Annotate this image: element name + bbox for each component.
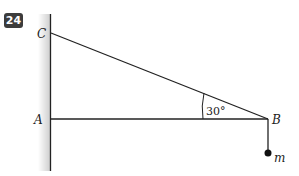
label-m: m	[274, 151, 285, 165]
diagram: C A B 30° m	[0, 0, 299, 176]
label-c: C	[37, 27, 46, 41]
angle-label: 30°	[206, 105, 226, 118]
mass	[265, 150, 272, 157]
angle-arc	[202, 93, 204, 119]
cable-cb	[51, 33, 268, 119]
label-a: A	[33, 113, 43, 127]
label-b: B	[271, 113, 281, 127]
